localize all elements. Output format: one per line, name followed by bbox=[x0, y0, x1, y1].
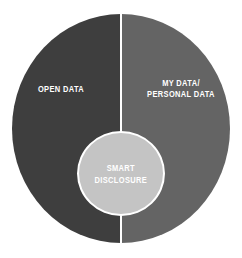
smart-disclosure-venn-diagram: OPEN DATA MY DATA/ PERSONAL DATA SMART D… bbox=[0, 0, 242, 258]
venn-label-open-data: OPEN DATA bbox=[21, 84, 100, 95]
venn-inner-circle-smart-disclosure: SMART DISCLOSURE bbox=[77, 131, 165, 216]
venn-label-smart-disclosure: SMART DISCLOSURE bbox=[95, 162, 148, 186]
venn-label-my-data-personal-data: MY DATA/ PERSONAL DATA bbox=[141, 78, 220, 100]
